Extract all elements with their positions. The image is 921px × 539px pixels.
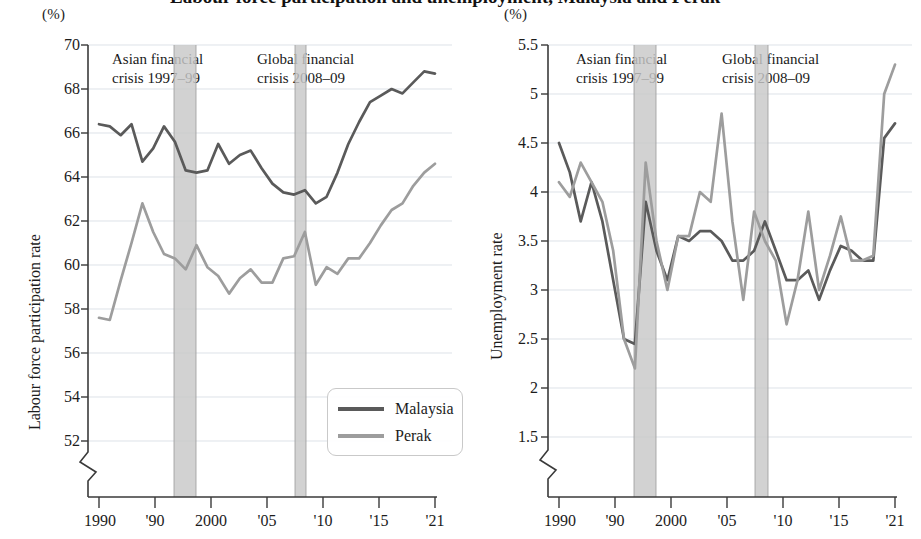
legend-item-malaysia[interactable]: Malaysia [338, 400, 454, 418]
x-tick-2000-right: 2000 [641, 512, 701, 530]
x-tick-1990-left: 1990 [69, 512, 131, 530]
x-tick-95-right: '90 [587, 512, 643, 530]
legend: Malaysia Perak [327, 388, 463, 456]
legend-swatch-malaysia [338, 407, 384, 411]
x-tick-15-left: '15 [351, 512, 407, 530]
plot-area-left [0, 0, 460, 539]
x-tickmarks-right [559, 497, 895, 508]
series-line-perak-right [559, 65, 895, 369]
x-tick-2000-left: 2000 [181, 512, 241, 530]
y-tickmarks-right [541, 45, 548, 437]
crisis-band-asian-left [174, 45, 196, 497]
legend-label-perak: Perak [395, 427, 431, 445]
series-line-perak-left [99, 164, 435, 320]
x-tick-15-right: '15 [811, 512, 867, 530]
legend-swatch-perak [338, 434, 384, 438]
axis-break-right [540, 439, 556, 497]
x-tick-05-left: '05 [239, 512, 295, 530]
crisis-band-asian-right [634, 45, 656, 497]
legend-item-perak[interactable]: Perak [338, 427, 431, 445]
plot-area-right [460, 0, 921, 539]
legend-label-malaysia: Malaysia [395, 400, 454, 418]
series-line-malaysia-left [99, 71, 435, 203]
gridlines-left [88, 45, 452, 441]
gridlines-right [548, 45, 912, 437]
x-tickmarks-left [99, 497, 435, 508]
crisis-band-global-right [755, 45, 768, 497]
axis-break-left [80, 443, 96, 497]
x-tick-1990-right: 1990 [529, 512, 591, 530]
x-tick-21-right: '21 [867, 512, 921, 530]
x-tick-21-left: '21 [407, 512, 463, 530]
panel-labour-force-participation: (%) Labour force participation rate 70 6… [0, 0, 460, 539]
figure-labour-charts: Labour force participation and unemploym… [0, 0, 921, 539]
panel-unemployment: (%) Unemployment rate 5.5 5 4.5 4 3.5 3 … [460, 0, 921, 539]
x-tick-10-right: '10 [755, 512, 811, 530]
x-tick-10-left: '10 [295, 512, 351, 530]
crisis-band-global-left [295, 45, 306, 497]
x-tick-05-right: '05 [699, 512, 755, 530]
x-tick-95-left: '90 [127, 512, 183, 530]
y-tickmarks-left [81, 45, 88, 441]
